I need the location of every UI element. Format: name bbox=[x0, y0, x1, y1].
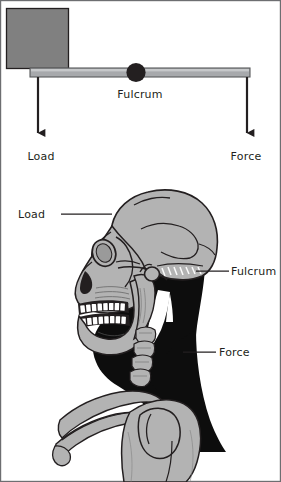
callout-load-label: Load bbox=[18, 208, 45, 221]
schematic-load-label: Load bbox=[27, 150, 54, 163]
schematic-fulcrum-label: Fulcrum bbox=[117, 88, 162, 101]
humeral-head bbox=[138, 408, 180, 458]
mandibular-condyle bbox=[145, 267, 160, 281]
load-block bbox=[7, 9, 69, 69]
fulcrum-pivot-icon bbox=[126, 63, 145, 82]
schematic-force-label: Force bbox=[231, 150, 262, 163]
lever-figure: Fulcrum Load Force bbox=[0, 0, 281, 482]
callout-force-label: Force bbox=[219, 346, 250, 359]
callout-fulcrum-label: Fulcrum bbox=[231, 265, 276, 278]
